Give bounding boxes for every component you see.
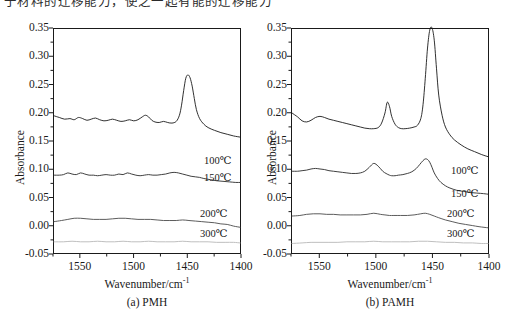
x-tick-label: 1450 (412, 260, 452, 272)
series-label-300: 300℃ (200, 228, 228, 239)
x-axis-title-text: Wavenumber/cm (105, 278, 183, 290)
y-tick-label: 0.25 (267, 79, 287, 91)
y-tick-label: 0.15 (29, 135, 49, 147)
series-label-100: 100℃ (451, 165, 479, 176)
x-axis-title-exponent: -1 (183, 276, 190, 285)
panel-caption-pamh: (b) PAMH (291, 296, 489, 308)
y-tick-label: 0.20 (267, 107, 287, 119)
y-tick-label: 0.35 (29, 22, 49, 34)
y-tick-label: -0.05 (25, 248, 49, 260)
x-tick-label: 1500 (114, 260, 154, 272)
x-axis-title-pmh: Wavenumber/cm-1 (53, 276, 241, 290)
x-axis-title-text: Wavenumber/cm (348, 278, 426, 290)
figure-panel-pmh: 0.350.300.250.200.150.100.050.00-0.05 15… (0, 0, 253, 321)
x-tick-label: 1450 (167, 260, 207, 272)
panel-caption-pmh: (a) PMH (53, 296, 241, 308)
y-tick-label: 0.10 (29, 163, 49, 175)
series-label-300: 300℃ (447, 228, 475, 239)
x-tick-label: 1550 (299, 260, 339, 272)
y-tick-label: 0.00 (29, 220, 49, 232)
x-axis-title-exponent: -1 (426, 276, 433, 285)
x-tick-label: 1500 (356, 260, 396, 272)
series-label-200: 200℃ (200, 208, 228, 219)
axis-ticks-pamh (253, 0, 507, 321)
x-tick-label: 1400 (469, 260, 507, 272)
series-label-200: 200℃ (447, 208, 475, 219)
x-axis-title-pamh: Wavenumber/cm-1 (291, 276, 489, 290)
y-tick-label: 0.20 (29, 107, 49, 119)
y-tick-label: 0.05 (29, 192, 49, 204)
y-tick-label: 0.00 (267, 220, 287, 232)
series-label-150: 150℃ (204, 172, 232, 183)
y-axis-title-pamh: Absorbance (266, 130, 278, 185)
y-axis-title-pmh: Absorbance (14, 130, 26, 185)
y-tick-label: -0.05 (263, 248, 287, 260)
y-tick-label: 0.30 (267, 50, 287, 62)
x-tick-label: 1550 (60, 260, 100, 272)
series-label-150: 150℃ (451, 188, 479, 199)
y-tick-label: 0.35 (267, 22, 287, 34)
y-tick-label: 0.30 (29, 50, 49, 62)
y-tick-label: 0.25 (29, 79, 49, 91)
figure-panel-pamh: 0.350.300.250.200.150.100.050.00-0.05 15… (253, 0, 506, 321)
series-label-100: 100℃ (204, 155, 232, 166)
y-tick-label: 0.05 (267, 192, 287, 204)
